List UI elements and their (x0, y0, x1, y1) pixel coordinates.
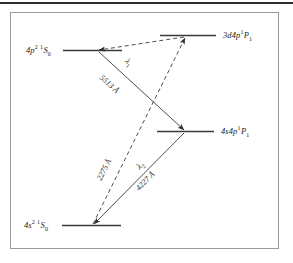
level-label-4p2-config: 4p (26, 45, 35, 55)
transition-arrow-cascade (99, 37, 184, 50)
level-label-3d4p: 3d4p1P1 (223, 29, 252, 42)
level-label-4s4p-config: 4s4p (221, 126, 237, 136)
level-label-4s4p-term-sub: 1 (246, 132, 249, 138)
level-label-4s2-config-sup: 2 (32, 219, 35, 225)
figure-canvas: 3d4p1P1 4p2 1S0 4s4p1P1 4s2 1S0 λ1 5513 … (0, 0, 293, 263)
level-label-4p2-config-sup: 2 (35, 44, 38, 50)
level-label-4s2-config: 4s (24, 220, 32, 230)
level-label-4s2: 4s2 1S0 (24, 219, 48, 232)
level-label-3d4p-config: 3d4p (223, 30, 240, 40)
level-label-4p2-term-sub: 0 (48, 51, 51, 57)
transition-arrow-lambda2 (94, 133, 184, 224)
level-label-3d4p-term-sub: 1 (249, 36, 252, 42)
level-label-4s4p: 4s4p1P1 (221, 125, 249, 138)
level-label-4s2-term-sub: 0 (45, 226, 48, 232)
level-label-4p2: 4p2 1S0 (26, 44, 51, 57)
